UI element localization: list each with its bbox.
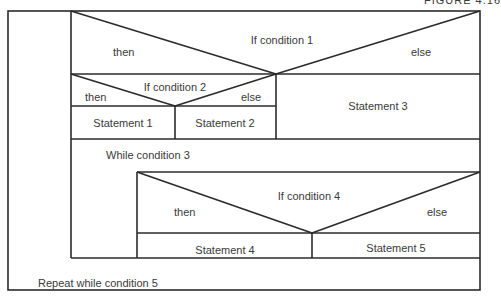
figure-label: FIGURE 4.16 xyxy=(424,0,501,6)
if4-else: else xyxy=(427,206,447,218)
statement-2: Statement 2 xyxy=(195,117,254,129)
if1-then: then xyxy=(113,46,134,58)
if2-condition: If condition 2 xyxy=(144,81,206,93)
statement-5: Statement 5 xyxy=(366,242,425,254)
if4-condition: If condition 4 xyxy=(278,190,340,202)
if2-else: else xyxy=(241,91,261,103)
statement-3: Statement 3 xyxy=(348,100,407,112)
statement-4: Statement 4 xyxy=(195,244,254,256)
statement-1: Statement 1 xyxy=(93,117,152,129)
if1-else: else xyxy=(411,46,431,58)
while-condition-3: While condition 3 xyxy=(106,149,190,161)
if2-then: then xyxy=(85,91,106,103)
repeat-condition-5: Repeat while condition 5 xyxy=(38,277,158,289)
if4-then: then xyxy=(174,206,195,218)
if1-condition: If condition 1 xyxy=(251,34,313,46)
